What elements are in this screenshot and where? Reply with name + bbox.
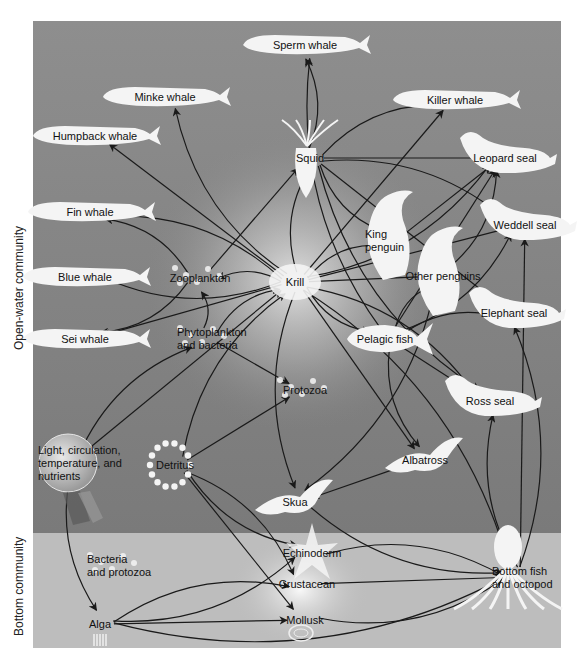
zone-label-open-water: Open-water community bbox=[12, 226, 26, 350]
minke-whale-label: Minke whale bbox=[134, 91, 195, 103]
crustacean-label: Crustacean bbox=[279, 578, 335, 590]
leopard-seal-label: Leopard seal bbox=[473, 152, 537, 164]
mollusk-label: Mollusk bbox=[286, 614, 324, 626]
fin-whale-label: Fin whale bbox=[66, 206, 113, 218]
killer-whale-label: Killer whale bbox=[427, 94, 483, 106]
skua-label: Skua bbox=[282, 496, 308, 508]
other-penguins-label: Other penguins bbox=[405, 270, 481, 282]
pelagic-fish-label: Pelagic fish bbox=[357, 333, 413, 345]
echinoderm-label: Echinoderm bbox=[283, 547, 342, 559]
zooplankton-label: Zooplankton bbox=[170, 272, 231, 284]
sei-whale-label: Sei whale bbox=[61, 333, 109, 345]
protozoa-label: Protozoa bbox=[283, 384, 328, 396]
zone-label-bottom: Bottom community bbox=[12, 537, 26, 636]
bottom-fish-octopod-label: Bottom fishand octopod bbox=[492, 565, 553, 590]
humpback-whale-label: Humpback whale bbox=[53, 130, 137, 142]
albatross-label: Albatross bbox=[402, 454, 448, 466]
weddell-seal-label: Weddell seal bbox=[494, 219, 557, 231]
ross-seal-label: Ross seal bbox=[466, 395, 514, 407]
detritus-label: Detritus bbox=[156, 459, 194, 471]
blue-whale-label: Blue whale bbox=[58, 271, 112, 283]
food-web-canvas: Sperm whaleMinke whaleKiller whaleHumpba… bbox=[0, 0, 578, 664]
squid-label: Squid bbox=[296, 152, 324, 164]
phytoplankton-label: Phytoplanktonand bacteria bbox=[177, 326, 247, 351]
alga-label: Alga bbox=[89, 618, 112, 630]
elephant-seal-label: Elephant seal bbox=[481, 307, 548, 319]
krill-label: Krill bbox=[286, 276, 304, 288]
food-web-diagram: Sperm whaleMinke whaleKiller whaleHumpba… bbox=[0, 0, 578, 664]
sperm-whale-label: Sperm whale bbox=[273, 39, 337, 51]
